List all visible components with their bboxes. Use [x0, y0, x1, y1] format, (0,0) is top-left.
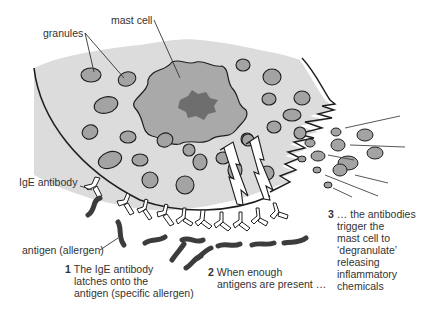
antigen-icon: [88, 198, 100, 215]
antigen-label: antigen (allergen): [22, 244, 104, 256]
granules-label: granules: [43, 27, 83, 39]
mast-cell-label: mast cell: [111, 14, 152, 26]
antigen-icon: [218, 244, 240, 246]
mast-cell-diagram: granules mast cell IgE antibody antigen …: [0, 0, 437, 318]
step-2-caption: 2When enough antigens are present …: [208, 266, 326, 290]
step-3-number: 3: [328, 208, 334, 220]
antibody-icon: [233, 212, 250, 231]
step-1-number: 1: [65, 263, 71, 275]
antibody-icon: [176, 208, 193, 226]
antigen-icon: [145, 237, 165, 243]
ige-antibody-label: IgE antibody: [19, 176, 77, 188]
antigen-icon: [284, 238, 306, 243]
antibody-icon: [270, 203, 288, 219]
antigen-icon: [252, 243, 274, 245]
antibody-icon: [251, 208, 268, 226]
antibody-icon: [214, 212, 231, 231]
antigens: [88, 198, 306, 268]
antigen-icon: [118, 222, 124, 245]
step-2-number: 2: [208, 266, 214, 278]
antigen-icon: [172, 244, 184, 260]
antibody-icon: [195, 210, 212, 229]
step-3-caption: 3… the antibodies trigger the mast cell …: [328, 208, 416, 292]
step-1-caption: 1The IgE antibody latches onto the antig…: [65, 263, 194, 299]
antigen-icon: [182, 239, 203, 241]
antigen-icon: [198, 248, 211, 258]
